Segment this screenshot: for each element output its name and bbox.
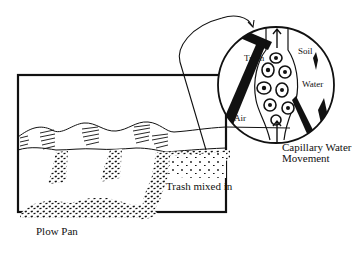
label-capillary-water-movement: Capillary Water Movement [282, 142, 352, 164]
label-water: Water [302, 80, 323, 89]
label-trash: Trash [244, 54, 264, 63]
label-soil: Soil [298, 47, 313, 56]
label-trash-mixed-in: Trash mixed in [166, 181, 232, 192]
label-air: Air [234, 114, 246, 123]
soil-diagram [0, 0, 354, 263]
label-plow-pan: Plow Pan [36, 226, 78, 237]
